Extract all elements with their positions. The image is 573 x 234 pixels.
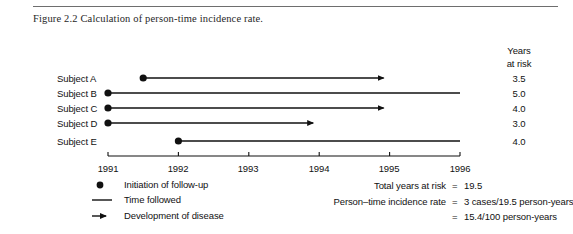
years-at-risk-d: 3.0 <box>501 118 537 129</box>
incidence-rate-label: Person–time incidence rate <box>266 196 446 207</box>
years-at-risk-a: 3.5 <box>501 73 537 84</box>
incidence-rate-equals-2: = <box>452 211 457 222</box>
subject-label-d: Subject D <box>57 118 97 129</box>
total-years-label: Total years at risk <box>286 180 446 191</box>
subject-label-b: Subject B <box>57 88 97 99</box>
subject-label-e: Subject E <box>57 136 97 147</box>
years-at-risk-header-line2: at risk <box>489 58 549 69</box>
incidence-rate-value-2: 15.4/100 person-years <box>464 211 557 222</box>
subject-label-c: Subject C <box>57 103 97 114</box>
subject-initiation-dot <box>140 74 147 81</box>
x-tick-label-1991: 1991 <box>88 163 128 174</box>
subject-initiation-dot <box>104 89 111 96</box>
legend-label-time-followed: Time followed <box>124 194 181 205</box>
years-at-risk-e: 4.0 <box>501 136 537 147</box>
x-tick-label-1992: 1992 <box>158 163 198 174</box>
total-years-value: 19.5 <box>464 180 482 191</box>
x-tick-label-1996: 1996 <box>440 163 480 174</box>
legend-label-development: Development of disease <box>124 210 224 221</box>
years-at-risk-header-line1: Years <box>489 45 549 56</box>
incidence-rate-equals: = <box>452 196 457 207</box>
incidence-rate-value: 3 cases/19.5 person-years <box>464 196 573 207</box>
x-tick-label-1993: 1993 <box>228 163 268 174</box>
subject-initiation-dot <box>104 119 111 126</box>
subject-initiation-dot <box>104 104 111 111</box>
x-tick-label-1994: 1994 <box>299 163 339 174</box>
legend-line-icon <box>92 195 120 206</box>
legend-dot-icon <box>92 180 120 191</box>
x-tick-label-1995: 1995 <box>369 163 409 174</box>
subject-label-a: Subject A <box>57 73 96 84</box>
subject-initiation-dot <box>175 137 182 144</box>
legend-label-initiation: Initiation of follow-up <box>124 179 208 190</box>
years-at-risk-b: 5.0 <box>501 88 537 99</box>
years-at-risk-c: 4.0 <box>501 103 537 114</box>
legend-arrow-icon <box>92 211 120 222</box>
total-years-equals: = <box>452 180 457 191</box>
